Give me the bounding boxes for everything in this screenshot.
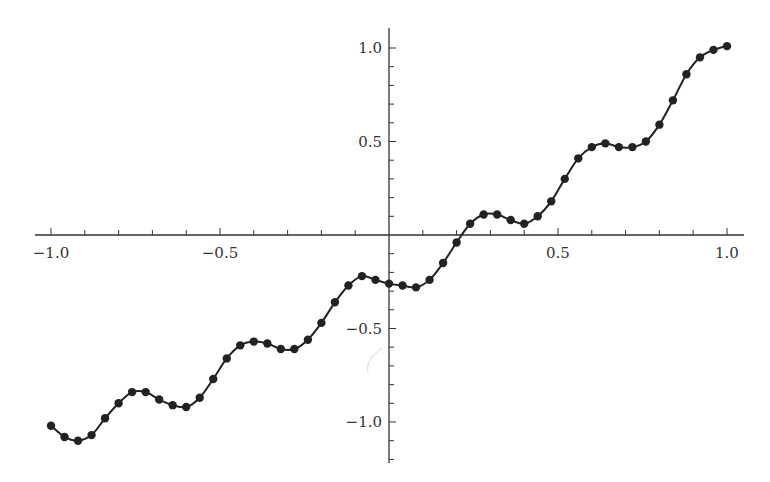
data-point xyxy=(385,279,393,287)
axes xyxy=(35,28,744,463)
data-point xyxy=(655,120,663,128)
data-point xyxy=(317,319,325,327)
data-point xyxy=(101,414,109,422)
data-point xyxy=(209,375,217,383)
data-point xyxy=(547,197,555,205)
y-tick-label: 0.5 xyxy=(358,133,382,151)
data-point xyxy=(331,298,339,306)
data-point xyxy=(223,354,231,362)
data-point xyxy=(128,388,136,396)
line-chart: −1.0−0.50.51.01.00.5−0.5−1.0 xyxy=(0,0,770,482)
data-point xyxy=(452,238,460,246)
x-tick-label: −1.0 xyxy=(33,244,69,262)
data-point xyxy=(114,399,122,407)
data-point xyxy=(682,70,690,78)
data-point xyxy=(588,143,596,151)
data-point xyxy=(196,393,204,401)
data-point xyxy=(466,220,474,228)
data-point xyxy=(344,281,352,289)
data-point xyxy=(615,143,623,151)
data-point xyxy=(439,259,447,267)
data-point xyxy=(155,395,163,403)
data-point xyxy=(304,336,312,344)
data-point xyxy=(520,220,528,228)
data-point xyxy=(506,216,514,224)
y-tick-label: −1.0 xyxy=(346,413,382,431)
x-tick-label: 1.0 xyxy=(715,244,739,262)
data-point xyxy=(263,339,271,347)
data-point xyxy=(709,46,717,54)
data-point xyxy=(47,422,55,430)
data-point xyxy=(74,437,82,445)
data-point xyxy=(561,175,569,183)
data-point xyxy=(642,137,650,145)
data-point xyxy=(696,53,704,61)
data-point xyxy=(479,210,487,218)
data-point xyxy=(628,143,636,151)
data-point xyxy=(87,431,95,439)
data-point xyxy=(601,139,609,147)
data-point xyxy=(723,42,731,50)
y-tick-label: −0.5 xyxy=(346,320,382,338)
data-point xyxy=(60,433,68,441)
data-point xyxy=(669,96,677,104)
data-point xyxy=(371,276,379,284)
data-point xyxy=(358,272,366,280)
data-point xyxy=(493,210,501,218)
data-point xyxy=(412,283,420,291)
data-point xyxy=(425,276,433,284)
data-point xyxy=(574,154,582,162)
x-tick-label: −0.5 xyxy=(202,244,238,262)
data-point xyxy=(168,401,176,409)
scan-artifact xyxy=(368,348,382,372)
data-point xyxy=(236,341,244,349)
data-point xyxy=(182,403,190,411)
data-point xyxy=(398,281,406,289)
data-point xyxy=(141,388,149,396)
x-tick-label: 0.5 xyxy=(546,244,570,262)
data-point xyxy=(250,337,258,345)
data-point xyxy=(290,345,298,353)
data-point xyxy=(277,345,285,353)
y-tick-label: 1.0 xyxy=(358,39,382,57)
data-point xyxy=(534,212,542,220)
